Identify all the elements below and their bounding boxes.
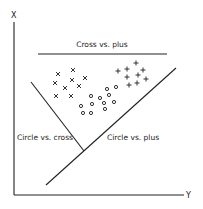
- cross-marker-icon: [69, 94, 73, 98]
- plus-points: [116, 61, 149, 88]
- cross-marker-icon: [54, 94, 58, 98]
- circle-marker-icon: [107, 93, 110, 96]
- cross-marker-icon: [56, 72, 60, 76]
- plus-marker-icon: [136, 73, 141, 78]
- plus-marker-icon: [125, 75, 130, 80]
- cross-marker-icon: [83, 76, 87, 80]
- label-circle-vs-plus: Circle vs. plus: [107, 133, 159, 142]
- circle-marker-icon: [89, 111, 92, 114]
- circle-marker-icon: [79, 104, 82, 107]
- circle-marker-icon: [112, 100, 115, 103]
- horizontal-axis-label: Y: [185, 191, 191, 200]
- circle-marker-icon: [103, 107, 106, 110]
- circle-points: [79, 85, 117, 114]
- label-circle-vs-cross: Circle vs. cross: [17, 133, 73, 142]
- circle-marker-icon: [90, 102, 93, 105]
- label-cross-vs-plus: Cross vs. plus: [76, 40, 128, 49]
- circle-marker-icon: [102, 101, 105, 104]
- cross-marker-icon: [70, 78, 74, 82]
- plus-marker-icon: [144, 77, 149, 82]
- plus-marker-icon: [135, 81, 140, 86]
- circle-marker-icon: [89, 94, 92, 97]
- plus-marker-icon: [141, 68, 146, 73]
- circle-marker-icon: [105, 87, 108, 90]
- circle-marker-icon: [114, 85, 117, 88]
- decision-boundary-diagram: X Y Cross vs. plus Circle vs. cross Circ…: [0, 0, 203, 209]
- cross-marker-icon: [71, 68, 75, 72]
- vertical-axis-label: X: [11, 11, 17, 20]
- plus-marker-icon: [134, 61, 139, 66]
- circle-marker-icon: [81, 111, 84, 114]
- plus-marker-icon: [125, 67, 130, 72]
- cross-points: [53, 68, 87, 98]
- circle-marker-icon: [98, 96, 101, 99]
- cross-marker-icon: [63, 86, 67, 90]
- plus-marker-icon: [127, 83, 132, 88]
- plus-marker-icon: [116, 69, 121, 74]
- cross-marker-icon: [53, 81, 57, 85]
- cross-marker-icon: [77, 84, 81, 88]
